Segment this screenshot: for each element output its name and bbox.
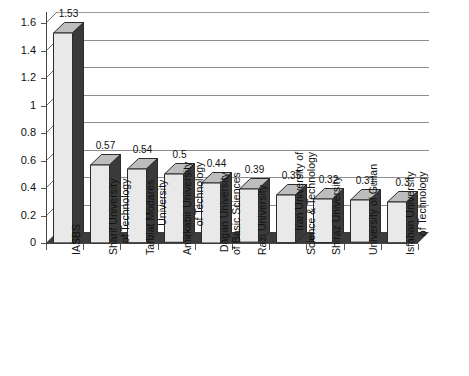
y-axis-tick-value: 0.8 [21,127,36,138]
category-label-line: of Basic Sciences [231,172,243,255]
y-axis-tick-label: 1 [0,100,36,111]
y-axis-tick-value: 0 [30,237,36,248]
x-axis-tick [83,244,84,250]
bar-value-label: 1.53 [45,9,92,19]
category-label-line: University of Guilan [368,164,380,255]
y-axis-tick [41,78,46,79]
y-axis-tick [41,51,46,52]
x-axis-category-label: IASBS [71,224,83,255]
y-axis-tick-value: 0.6 [21,155,36,166]
category-label-line: Shiraz University [331,176,343,255]
y-axis-tick-label: 0.4 [0,182,36,193]
y-axis-tick-value: 1 [30,100,36,111]
category-label-line: University [157,180,169,255]
x-axis-category-label: Iran University ofScience & Technology [294,152,317,255]
category-label-line: of Technology [194,162,206,255]
x-axis-category-label: Tarbiat ModaresUniversity [145,180,168,255]
bar-chart: 00.20.40.60.811.21.41.6 1.530.570.540.50… [0,0,469,376]
category-label-line: Amirkabir University [182,162,194,255]
x-axis-category-label: Sharif Universityof Technology [108,179,131,255]
category-label-line: Razi University [257,185,269,255]
category-label-line: IASBS [71,224,83,255]
bar [53,22,84,243]
y-axis-tick-label: 1.4 [0,45,36,56]
x-axis-category-label: University of Guilan [368,164,380,255]
x-axis-category-label: Amirkabir Universityof Technology [182,162,205,255]
y-axis-tick [41,133,46,134]
y-axis-tick-value: 1.6 [21,17,36,28]
y-axis-tick-value: 0.2 [21,210,36,221]
x-axis-category-label: Shiraz University [331,176,343,255]
bar-side-face [73,22,84,242]
x-axis-category-label: Razi University [257,185,269,255]
y-axis-tick-label: 0.8 [0,127,36,138]
category-label-line: of Technology [417,172,429,255]
x-axis-category-label: Isfahan Universityof Technology [405,172,428,255]
y-axis-tick [41,188,46,189]
x-axis-tick [269,244,270,250]
category-label-line: of Technology [119,179,131,255]
x-axis-tick [381,244,382,250]
x-axis-tick [46,244,47,250]
y-axis-tick [41,23,46,24]
x-axis-category-label: Dagan Universityof Basic Sciences [219,172,242,255]
x-axis-tick [344,244,345,250]
y-axis-tick [41,106,46,107]
y-axis-tick-value: 1.2 [21,72,36,83]
y-axis-tick-label: 0.6 [0,155,36,166]
y-axis-tick-value: 1.4 [21,45,36,56]
bar-front-face [54,33,73,243]
category-label-line: Iran University of [294,152,306,255]
y-axis-tick-label: 0 [0,237,36,248]
y-axis-tick-label: 1.6 [0,17,36,28]
y-axis-tick-value: 0.4 [21,182,36,193]
y-axis-tick-label: 0.2 [0,210,36,221]
category-label-line: Science & Technology [305,152,317,255]
category-label-line: Sharif University [108,179,120,255]
y-axis-tick-label: 1.2 [0,72,36,83]
y-axis-tick [41,161,46,162]
category-label-line: Tarbiat Modares [145,180,157,255]
y-axis-tick [41,216,46,217]
y-axis-line [46,12,47,244]
